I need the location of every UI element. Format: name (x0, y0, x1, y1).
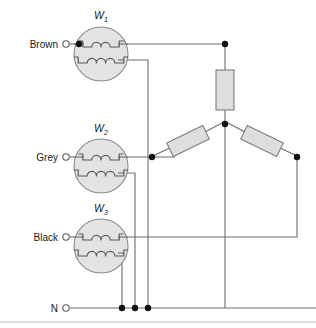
node-neutral-3 (145, 305, 151, 311)
r-vertical (216, 70, 234, 110)
winding-w1: W1 (74, 9, 128, 81)
node-neutral-2 (132, 305, 138, 311)
r-left-diagonal (167, 125, 210, 156)
wire-left-diagonal-out (205, 123, 222, 132)
winding-w3: W3 (74, 202, 128, 273)
terminal-grey[interactable]: Grey (36, 152, 69, 163)
node-top-right (222, 41, 228, 47)
winding-body-w1 (74, 27, 128, 81)
node-left-branch (149, 154, 155, 160)
circuit-diagram: W1W2W3 BrownGreyBlackN (0, 0, 316, 328)
node-w1-input (76, 41, 82, 47)
wire-right-diagonal-in (228, 123, 245, 132)
r-right-diagonal (241, 125, 284, 156)
wire-w3-top-out (123, 160, 297, 237)
terminal-label-black: Black (34, 232, 59, 243)
terminals-layer: BrownGreyBlackN (30, 39, 70, 314)
windings-layer: W1W2W3 (74, 9, 128, 273)
terminal-label-neutral: N (51, 303, 58, 314)
terminal-neutral[interactable]: N (51, 303, 69, 314)
terminal-ring-brown[interactable] (63, 41, 69, 47)
node-right-branch (294, 154, 300, 160)
winding-label-w1: W1 (94, 9, 108, 23)
terminal-black[interactable]: Black (34, 232, 70, 243)
terminal-ring-black[interactable] (63, 234, 69, 240)
terminal-label-grey: Grey (36, 152, 58, 163)
winding-w2: W2 (74, 122, 128, 193)
node-star-center (222, 121, 228, 127)
terminal-ring-grey[interactable] (63, 154, 69, 160)
winding-body-w2 (74, 139, 128, 193)
winding-label-w2: W2 (94, 122, 108, 136)
terminal-brown[interactable]: Brown (30, 39, 70, 50)
terminal-label-brown: Brown (30, 39, 58, 50)
circuit-canvas: W1W2W3 BrownGreyBlackN (0, 0, 316, 328)
winding-label-w3: W3 (94, 202, 108, 216)
winding-body-w3 (74, 219, 128, 273)
terminal-ring-neutral[interactable] (63, 305, 69, 311)
node-neutral-1 (119, 305, 125, 311)
